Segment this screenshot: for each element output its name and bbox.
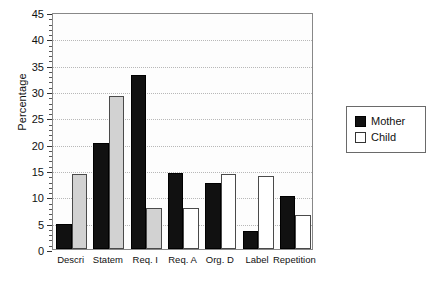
- y-tick-40: [47, 40, 52, 41]
- y-tick-minor: [49, 114, 52, 115]
- legend-item-mother: Mother: [355, 113, 418, 129]
- x-axis-label-3: Req. I: [133, 254, 158, 265]
- legend-item-child: Child: [355, 129, 418, 145]
- y-tick-label-30: 30: [4, 87, 44, 99]
- y-tick-45: [47, 14, 52, 15]
- bar-child-3: [146, 208, 162, 249]
- y-tick-minor: [49, 19, 52, 20]
- y-tick-10: [47, 198, 52, 199]
- x-axis-label-7: Repetition: [273, 254, 316, 265]
- y-tick-minor: [49, 140, 52, 141]
- bar-group-req-i: [128, 14, 165, 249]
- bar-child-7: [295, 215, 311, 249]
- y-tick-minor: [49, 61, 52, 62]
- y-tick-minor: [49, 109, 52, 110]
- y-tick-minor: [49, 56, 52, 57]
- bar-chart-figure: Percentage 051015202530354045 DescriStat…: [0, 0, 437, 284]
- y-tick-minor: [49, 151, 52, 152]
- y-tick-minor: [49, 209, 52, 210]
- bar-group-statem: [90, 14, 127, 249]
- legend-label-child: Child: [371, 131, 396, 143]
- y-tick-minor: [49, 230, 52, 231]
- y-tick-30: [47, 93, 52, 94]
- y-tick-minor: [49, 156, 52, 157]
- bar-mother-1: [56, 224, 72, 249]
- y-tick-35: [47, 67, 52, 68]
- y-tick-0: [47, 251, 52, 252]
- x-axis-label-2: Statem: [93, 254, 123, 265]
- chart-legend: Mother Child: [346, 106, 426, 153]
- legend-label-mother: Mother: [371, 115, 405, 127]
- plot-area: 051015202530354045: [52, 13, 313, 250]
- y-tick-label-35: 35: [4, 61, 44, 73]
- bar-mother-4: [168, 173, 184, 249]
- y-tick-minor: [49, 35, 52, 36]
- y-tick-minor: [49, 104, 52, 105]
- y-tick-minor: [49, 235, 52, 236]
- x-axis-label-1: Descri: [57, 254, 84, 265]
- bar-child-4: [183, 208, 199, 249]
- legend-swatch-mother-icon: [355, 116, 366, 127]
- y-tick-minor: [49, 183, 52, 184]
- y-tick-minor: [49, 130, 52, 131]
- bar-child-6: [258, 176, 274, 249]
- bar-mother-6: [243, 231, 259, 249]
- y-tick-minor: [49, 188, 52, 189]
- y-tick-15: [47, 172, 52, 173]
- y-tick-minor: [49, 25, 52, 26]
- y-tick-minor: [49, 98, 52, 99]
- y-tick-label-45: 45: [4, 8, 44, 20]
- bar-group-repetition: [277, 14, 314, 249]
- y-tick-minor: [49, 240, 52, 241]
- y-tick-minor: [49, 82, 52, 83]
- y-tick-minor: [49, 193, 52, 194]
- y-tick-label-20: 20: [4, 140, 44, 152]
- y-tick-minor: [49, 204, 52, 205]
- y-tick-minor: [49, 30, 52, 31]
- y-tick-20: [47, 146, 52, 147]
- y-tick-25: [47, 119, 52, 120]
- bar-group-label: [239, 14, 276, 249]
- y-tick-minor: [49, 246, 52, 247]
- y-tick-minor: [49, 219, 52, 220]
- bar-child-5: [221, 174, 237, 249]
- legend-swatch-child-icon: [355, 132, 366, 143]
- bar-group-descri: [53, 14, 90, 249]
- y-tick-minor: [49, 72, 52, 73]
- y-tick-5: [47, 225, 52, 226]
- y-tick-label-10: 10: [4, 192, 44, 204]
- y-tick-label-15: 15: [4, 166, 44, 178]
- y-tick-minor: [49, 77, 52, 78]
- x-axis-label-5: Org. D: [206, 254, 234, 265]
- bar-mother-2: [93, 143, 109, 249]
- y-tick-minor: [49, 125, 52, 126]
- y-tick-label-40: 40: [4, 34, 44, 46]
- bar-mother-7: [280, 196, 296, 249]
- x-axis-label-6: Label: [245, 254, 268, 265]
- bar-child-1: [72, 174, 88, 249]
- y-tick-minor: [49, 51, 52, 52]
- y-tick-minor: [49, 161, 52, 162]
- bar-group-org-d: [202, 14, 239, 249]
- y-tick-minor: [49, 135, 52, 136]
- y-tick-label-0: 0: [4, 245, 44, 257]
- x-axis-label-4: Req. A: [168, 254, 197, 265]
- y-tick-label-5: 5: [4, 219, 44, 231]
- y-tick-minor: [49, 214, 52, 215]
- bar-mother-3: [131, 75, 147, 249]
- y-tick-minor: [49, 177, 52, 178]
- y-tick-minor: [49, 167, 52, 168]
- y-tick-minor: [49, 88, 52, 89]
- bar-mother-5: [205, 183, 221, 249]
- bar-child-2: [109, 96, 125, 249]
- y-tick-minor: [49, 46, 52, 47]
- y-tick-label-25: 25: [4, 113, 44, 125]
- bar-group-req-a: [165, 14, 202, 249]
